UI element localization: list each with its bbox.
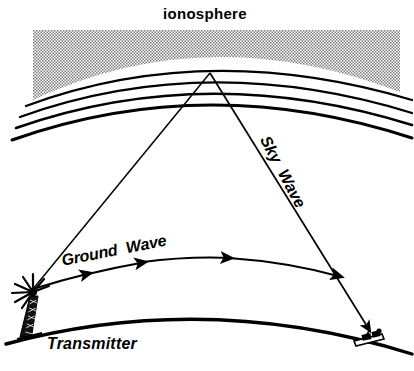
ground-wave-seg-4 [229, 258, 342, 277]
ground-wave-seg-2 [88, 262, 146, 274]
receiver-dish [376, 328, 381, 333]
ionosphere-label: ionosphere [163, 5, 247, 22]
diagram-canvas [0, 0, 414, 371]
transmitter-tower [17, 296, 42, 342]
transmitter-label: Transmitter [47, 335, 137, 353]
propagation-diagram: ionosphere GroundWave SkyWave Transmitte… [0, 0, 414, 371]
ground-wave-seg-3 [143, 258, 232, 263]
ionosphere-arc-2 [20, 82, 412, 117]
